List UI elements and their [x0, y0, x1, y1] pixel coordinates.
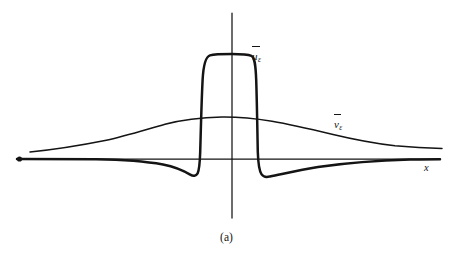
figure-container: uε vε x (a)	[0, 0, 453, 272]
label-u-symbol: u	[252, 51, 258, 62]
label-u-overbar	[252, 46, 259, 47]
figure-caption: (a)	[0, 232, 453, 244]
label-u-subscript: ε	[258, 56, 261, 64]
label-v-symbol: v	[334, 119, 339, 130]
label-u-epsilon: uε	[252, 47, 261, 64]
label-x-axis: x	[424, 158, 429, 174]
label-v-overbar	[334, 114, 341, 115]
axes-group	[17, 13, 440, 218]
label-v-subscript: ε	[339, 124, 342, 132]
curve-v-epsilon	[30, 117, 442, 152]
label-x-symbol: x	[424, 163, 429, 174]
label-v-epsilon: vε	[334, 115, 342, 132]
